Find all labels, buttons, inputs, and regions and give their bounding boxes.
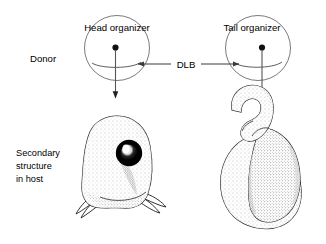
head-organizer-arc xyxy=(92,62,141,67)
dlb-connector: DLB xyxy=(138,59,239,70)
dlb-label: DLB xyxy=(177,59,196,70)
figure-container: Donor Head organizer Tail organizer DLB xyxy=(0,0,326,244)
head-organizer-pole-dot xyxy=(112,44,118,50)
secondary-tail-embryo xyxy=(216,82,308,236)
head-organizer-label: Head organizer xyxy=(84,22,150,33)
row-label-donor: Donor xyxy=(30,53,57,64)
secondary-head-embryo xyxy=(76,112,166,218)
row-label-secondary-line1: Secondary xyxy=(16,148,60,158)
embryo-eye-spot xyxy=(116,140,142,166)
row-label-secondary-line3: in host xyxy=(16,174,44,184)
tail-organizer-label: Tail organizer xyxy=(223,22,281,33)
row-label-secondary-line2: structure xyxy=(16,161,52,171)
tail-organizer-arc xyxy=(233,62,282,67)
developmental-biology-diagram: Donor Head organizer Tail organizer DLB xyxy=(0,0,326,244)
tail-organizer-pole-dot xyxy=(259,44,265,50)
